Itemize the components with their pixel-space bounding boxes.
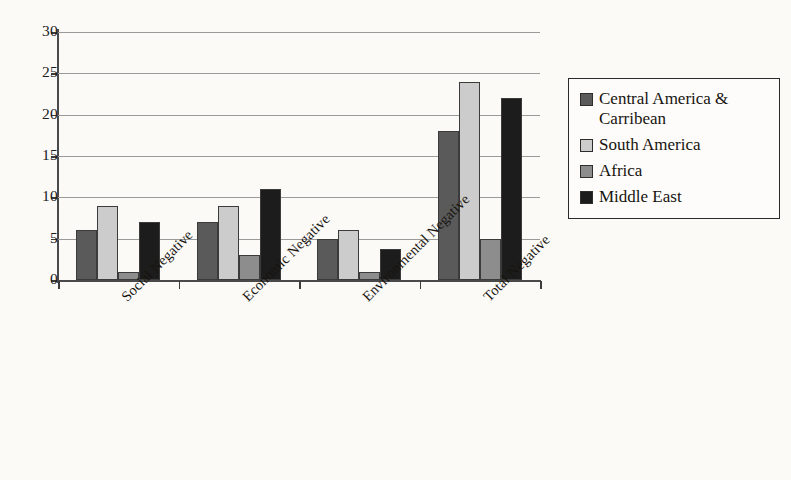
y-tick-label: 10 bbox=[22, 187, 58, 205]
x-tick-mark bbox=[58, 281, 60, 289]
y-tick-label: 30 bbox=[22, 22, 58, 40]
bar bbox=[218, 206, 239, 280]
y-tick-label: 0 bbox=[22, 270, 58, 288]
legend-swatch-icon bbox=[580, 139, 593, 152]
x-tick-mark bbox=[540, 281, 542, 289]
bar bbox=[317, 239, 338, 280]
bar-group bbox=[58, 32, 179, 280]
chart-legend: Central America & CarribeanSouth America… bbox=[568, 78, 780, 219]
x-tick-mark bbox=[420, 281, 422, 289]
legend-label: Africa bbox=[599, 161, 642, 181]
legend-item: Middle East bbox=[580, 187, 770, 207]
x-tick-mark bbox=[179, 281, 181, 289]
legend-item: South America bbox=[580, 135, 770, 155]
legend-label: South America bbox=[599, 135, 701, 155]
y-tick-label: 5 bbox=[22, 229, 58, 247]
y-tick-label: 20 bbox=[22, 105, 58, 123]
y-axis: 051015202530 bbox=[0, 0, 58, 480]
bar-group bbox=[420, 32, 541, 280]
x-tick-mark bbox=[299, 281, 301, 289]
bar-group bbox=[179, 32, 300, 280]
bar bbox=[459, 82, 480, 280]
bar bbox=[97, 206, 118, 280]
bar bbox=[76, 230, 97, 280]
legend-swatch-icon bbox=[580, 191, 593, 204]
legend-swatch-icon bbox=[580, 93, 593, 106]
legend-item: Africa bbox=[580, 161, 770, 181]
legend-label: Middle East bbox=[599, 187, 682, 207]
y-tick-label: 25 bbox=[22, 63, 58, 81]
legend-item: Central America & Carribean bbox=[580, 89, 770, 129]
bar-group bbox=[299, 32, 420, 280]
bar bbox=[338, 230, 359, 280]
legend-label: Central America & Carribean bbox=[599, 89, 770, 129]
chart-figure: 051015202530 Social NegativeEconomic Neg… bbox=[0, 0, 791, 480]
y-tick-label: 15 bbox=[22, 146, 58, 164]
bar bbox=[197, 222, 218, 280]
legend-swatch-icon bbox=[580, 165, 593, 178]
